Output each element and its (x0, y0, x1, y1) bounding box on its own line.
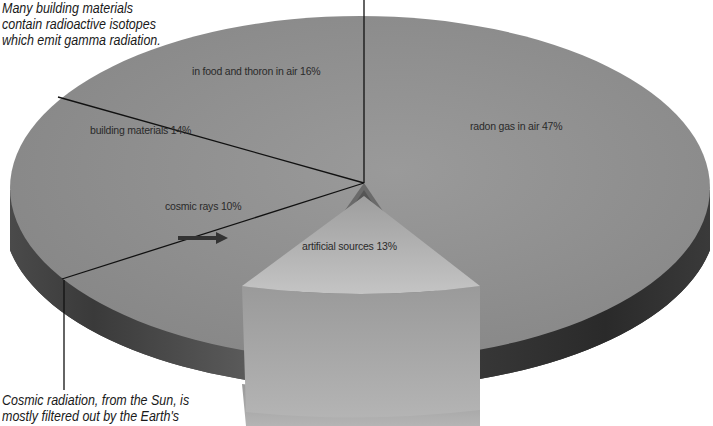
annotation-line: Cosmic radiation, from the Sun, is (2, 392, 189, 408)
slice-label-cosmic: cosmic rays 10% (165, 200, 241, 212)
annotation-line: which emit gamma radiation. (2, 32, 161, 48)
exploded-slice-side-main (242, 286, 480, 418)
slice-label-building: building materials 14% (90, 124, 191, 136)
annotation-line: Many building materials (2, 0, 161, 16)
slice-label-food-thoron: in food and thoron in air 16% (192, 65, 320, 77)
annotation-bottom: Cosmic radiation, from the Sun, is mostl… (2, 392, 189, 424)
slice-label-artificial: artificial sources 13% (302, 240, 397, 252)
pie-chart (0, 0, 713, 426)
annotation-line: contain radioactive isotopes (2, 16, 161, 32)
annotation-line: mostly filtered out by the Earth's (2, 408, 189, 424)
annotation-top: Many building materials contain radioact… (2, 0, 161, 48)
slice-label-radon: radon gas in air 47% (470, 120, 562, 132)
